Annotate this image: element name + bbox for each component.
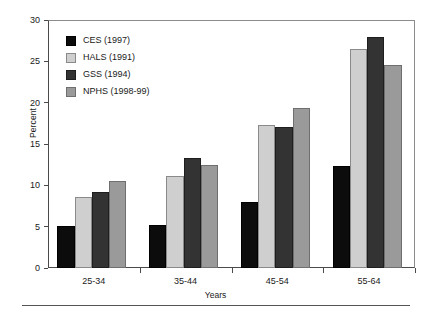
y-tick-mark	[44, 20, 48, 21]
y-tick-label: 5	[35, 221, 40, 233]
legend-swatch-icon	[66, 53, 76, 63]
y-tick-mark	[44, 226, 48, 227]
bar	[293, 108, 310, 268]
legend-label: GSS (1994)	[83, 69, 131, 80]
bar	[241, 202, 258, 268]
chart-figure: Percent 051015202530 25-3435-4445-5455-6…	[0, 0, 431, 320]
legend-swatch-icon	[66, 36, 76, 46]
x-tick-label: 35-44	[140, 276, 232, 286]
x-axis-title: Years	[0, 290, 431, 300]
bar	[275, 127, 292, 268]
y-tick-mark	[44, 268, 48, 269]
x-tick-label: 55-64	[323, 276, 415, 286]
y-tick-label: 15	[30, 138, 40, 150]
bar	[384, 65, 401, 268]
x-tick-label: 25-34	[48, 276, 140, 286]
bar	[75, 197, 92, 268]
y-tick-mark	[44, 185, 48, 186]
legend-item: NPHS (1998-99)	[66, 83, 150, 100]
bar	[184, 158, 201, 268]
bar	[333, 166, 350, 268]
footer-rule	[22, 305, 410, 306]
y-tick-25: 25	[0, 55, 48, 67]
y-tick-mark	[44, 144, 48, 145]
legend-item: HALS (1991)	[66, 49, 150, 66]
y-tick-label: 20	[30, 97, 40, 109]
chart-legend: CES (1997)HALS (1991)GSS (1994)NPHS (199…	[66, 32, 150, 100]
y-tick-label: 30	[30, 14, 40, 26]
legend-item: GSS (1994)	[66, 66, 150, 83]
legend-label: NPHS (1998-99)	[83, 86, 150, 97]
legend-item: CES (1997)	[66, 32, 150, 49]
bar	[57, 226, 74, 268]
bar	[258, 125, 275, 268]
x-tick-mark	[232, 268, 233, 273]
y-tick-label: 0	[35, 262, 40, 274]
y-tick-mark	[44, 102, 48, 103]
y-tick-0: 0	[0, 262, 48, 274]
y-tick-10: 10	[0, 179, 48, 191]
legend-label: HALS (1991)	[83, 52, 135, 63]
bar	[367, 37, 384, 268]
y-tick-label: 10	[30, 179, 40, 191]
bar	[149, 225, 166, 268]
y-tick-label: 25	[30, 55, 40, 67]
legend-swatch-icon	[66, 87, 76, 97]
legend-swatch-icon	[66, 70, 76, 80]
bar	[201, 165, 218, 268]
bar	[109, 181, 126, 268]
y-tick-mark	[44, 61, 48, 62]
y-tick-20: 20	[0, 97, 48, 109]
x-tick-mark	[415, 268, 416, 273]
y-tick-15: 15	[0, 138, 48, 150]
x-tick-label: 45-54	[232, 276, 324, 286]
bar	[166, 176, 183, 268]
y-tick-5: 5	[0, 221, 48, 233]
legend-label: CES (1997)	[83, 35, 130, 46]
bar	[350, 49, 367, 268]
x-tick-mark	[323, 268, 324, 273]
bar	[92, 192, 109, 268]
y-tick-30: 30	[0, 14, 48, 26]
x-tick-mark	[140, 268, 141, 273]
